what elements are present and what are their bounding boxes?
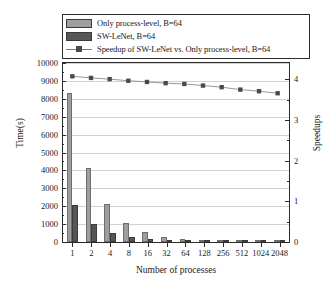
bar <box>129 237 135 242</box>
y-tick-label-left: 0 <box>14 238 58 247</box>
y-tick-right <box>285 161 290 162</box>
y-tick-left-minor <box>62 233 64 234</box>
bar <box>72 205 78 242</box>
y-tick-left <box>62 242 66 243</box>
y-tick-right-minor <box>287 140 290 141</box>
y-tick-left <box>62 135 66 136</box>
legend-label: Only process-level, B=64 <box>97 17 182 30</box>
y-tick-right-minor <box>287 222 290 223</box>
x-tick <box>91 243 92 247</box>
legend-swatch-dark-icon <box>66 32 92 41</box>
y-tick-label-left: 1000 <box>14 220 58 229</box>
x-tick <box>167 243 168 247</box>
y-tick-left-minor <box>62 179 64 180</box>
x-tick <box>110 243 111 247</box>
bar <box>185 240 191 242</box>
bar <box>242 240 248 242</box>
legend-item-only-process-level: Only process-level, B=64 <box>66 17 306 30</box>
y-tick-right-minor <box>287 181 290 182</box>
chart-legend: Only process-level, B=64 SW-LeNet, B=64 … <box>62 14 310 59</box>
y-tick-label-right: 3 <box>294 116 298 125</box>
x-tick <box>148 243 149 247</box>
x-tick <box>261 243 262 247</box>
y-tick-label-left: 9000 <box>14 77 58 86</box>
bar <box>91 224 97 242</box>
y-tick-left-minor <box>62 126 64 127</box>
bar <box>167 240 173 242</box>
y-tick-left <box>62 224 66 225</box>
bar <box>261 240 267 242</box>
bar <box>223 240 229 242</box>
y-tick-left <box>62 63 66 64</box>
y-tick-right <box>285 242 290 243</box>
y-axis-label-right: Speedups <box>312 93 322 173</box>
x-tick <box>280 243 281 247</box>
x-tick <box>223 243 224 247</box>
x-tick <box>204 243 205 247</box>
bar <box>110 233 116 242</box>
legend-label: Speedup of SW-LeNet vs. Only process-lev… <box>97 43 270 56</box>
y-tick-left-minor <box>62 197 64 198</box>
y-tick-label-left: 10000 <box>14 59 58 68</box>
x-tick <box>185 243 186 247</box>
y-tick-right <box>285 201 290 202</box>
y-tick-left <box>62 153 66 154</box>
y-tick-left <box>62 81 66 82</box>
x-axis-label: Number of processes <box>62 265 290 275</box>
x-tick <box>242 243 243 247</box>
y-tick-right-minor <box>287 100 290 101</box>
y-tick-label-left: 2000 <box>14 202 58 211</box>
y-tick-left <box>62 117 66 118</box>
bar <box>148 239 154 242</box>
y-tick-right <box>285 79 290 80</box>
x-tick <box>129 243 130 247</box>
y-tick-label-right: 1 <box>294 197 298 206</box>
bar <box>204 240 210 242</box>
x-tick-label: 2048 <box>268 249 292 258</box>
y-tick-left <box>62 99 66 100</box>
y-tick-right <box>285 120 290 121</box>
y-tick-label-right: 0 <box>294 238 298 247</box>
plot-area <box>62 62 290 243</box>
legend-label: SW-LeNet, B=64 <box>97 30 155 43</box>
y-tick-left-minor <box>62 144 64 145</box>
y-tick-label-right: 4 <box>294 75 298 84</box>
y-tick-left-minor <box>62 215 64 216</box>
legend-line-marker-icon <box>66 45 92 54</box>
legend-item-speedup: Speedup of SW-LeNet vs. Only process-lev… <box>66 43 306 56</box>
legend-item-sw-lenet: SW-LeNet, B=64 <box>66 30 306 43</box>
y-tick-left-minor <box>62 72 64 73</box>
x-tick <box>72 243 73 247</box>
y-tick-left-minor <box>62 90 64 91</box>
bar-layer <box>63 63 289 242</box>
y-axis-label-left: Time(s) <box>15 93 25 173</box>
y-tick-left-minor <box>62 161 64 162</box>
y-tick-left <box>62 206 66 207</box>
legend-swatch-light-icon <box>66 19 92 28</box>
y-tick-left-minor <box>62 108 64 109</box>
y-tick-label-left: 3000 <box>14 184 58 193</box>
y-tick-left <box>62 170 66 171</box>
y-tick-label-right: 2 <box>294 157 298 166</box>
y-tick-left <box>62 188 66 189</box>
chart-figure: Only process-level, B=64 SW-LeNet, B=64 … <box>0 0 325 291</box>
